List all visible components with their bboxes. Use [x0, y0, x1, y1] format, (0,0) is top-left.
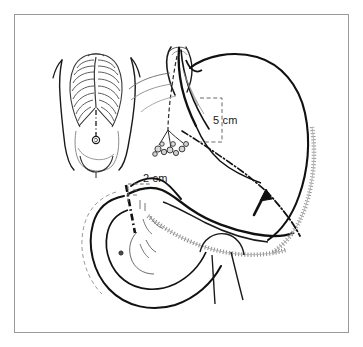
label-2cm: 2 cm	[143, 172, 168, 184]
nodule	[184, 142, 189, 147]
nodule	[160, 142, 164, 146]
duodenal-node	[119, 251, 123, 255]
label-5cm: 5 cm	[213, 114, 238, 126]
nodule	[171, 142, 176, 147]
illustration-canvas: 5 cm 2 cm	[0, 0, 363, 347]
nodule	[155, 146, 161, 152]
nodule	[167, 147, 173, 153]
nodule	[153, 152, 158, 157]
nodule	[173, 150, 178, 155]
nodule	[161, 149, 166, 154]
surgical-figure: 5 cm 2 cm	[0, 0, 363, 347]
nodule	[179, 146, 185, 152]
